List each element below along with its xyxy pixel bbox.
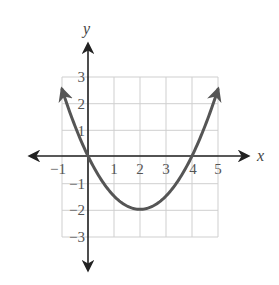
parabola-chart: x y −1 1 2 3 4 5 3 2 1 −1 −2 −3 [0,0,279,285]
x-tick: −1 [50,161,66,177]
y-tick-labels: 3 2 1 −1 −2 −3 [69,69,85,245]
x-tick: 5 [214,161,222,177]
grid [62,77,218,237]
x-tick-labels: −1 1 2 3 4 5 [50,161,222,177]
y-tick: −3 [69,229,85,245]
x-tick: 2 [136,161,144,177]
x-tick: 4 [189,161,197,177]
y-tick: −2 [69,202,85,218]
y-tick: −1 [69,176,85,192]
x-tick: 3 [162,161,170,177]
y-tick: 2 [78,96,86,112]
x-axis-label: x [256,147,264,164]
y-axis-label: y [81,20,91,38]
x-tick: 1 [110,161,118,177]
y-tick: 3 [78,69,86,85]
